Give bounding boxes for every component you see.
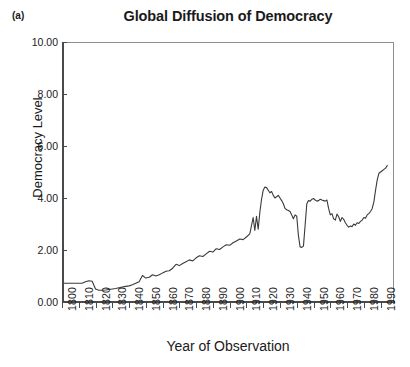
panel-label: (a) [12,10,24,21]
x-tick-label: 1920 [267,287,279,311]
x-tick-label: 1900 [234,287,246,311]
x-tick-mark [213,303,214,308]
x-tick-mark [129,303,130,308]
y-tick-mark [62,146,67,147]
x-tick-mark [146,303,147,308]
x-tick-mark [297,303,298,308]
x-tick-mark [381,303,382,308]
x-tick-mark [347,303,348,308]
x-tick-label: 1840 [133,287,145,311]
data-line-chart [62,42,394,302]
y-tick-mark [62,94,67,95]
y-tick-mark [62,250,67,251]
x-tick-label: 1960 [334,287,346,311]
chart-figure: (a) Global Diffusion of Democracy 0.002.… [0,0,410,367]
x-tick-label: 1820 [100,287,112,311]
democracy-level-line [62,166,387,291]
x-tick-mark [330,303,331,308]
x-tick-label: 1980 [368,287,380,311]
x-tick-mark [314,303,315,308]
x-tick-label: 1890 [217,287,229,311]
y-tick-label-text: 10.00 [12,37,58,47]
x-tick-mark [179,303,180,308]
x-tick-label: 1810 [83,287,95,311]
x-tick-mark [163,303,164,308]
y-tick-label: 10.00 [4,37,58,47]
x-tick-label: 1930 [284,287,296,311]
x-axis-title: Year of Observation [62,338,394,354]
chart-title: Global Diffusion of Democracy [62,8,394,24]
y-tick-mark [62,198,67,199]
x-tick-label: 1880 [200,287,212,311]
x-tick-label: 1800 [66,287,78,311]
x-tick-mark [96,303,97,308]
x-tick-label: 1990 [385,287,397,311]
x-tick-mark [280,303,281,308]
y-tick-label-text: 0.00 [12,297,58,307]
x-tick-label: 1830 [116,287,128,311]
y-axis-line [62,42,64,303]
x-tick-label: 1860 [167,287,179,311]
x-tick-label: 1970 [351,287,363,311]
x-tick-mark [112,303,113,308]
x-tick-mark [263,303,264,308]
x-tick-mark [62,303,63,308]
x-tick-mark [246,303,247,308]
y-tick-mark [62,42,67,43]
x-tick-label: 1850 [150,287,162,311]
x-tick-mark [364,303,365,308]
x-tick-label: 1940 [301,287,313,311]
x-tick-label: 1910 [250,287,262,311]
x-tick-mark [230,303,231,308]
x-tick-label: 1950 [318,287,330,311]
x-tick-label: 1870 [183,287,195,311]
x-tick-mark [79,303,80,308]
y-tick-label: 0.00 [4,297,58,307]
y-axis-title: Democracy Level [30,48,45,248]
x-tick-mark [196,303,197,308]
